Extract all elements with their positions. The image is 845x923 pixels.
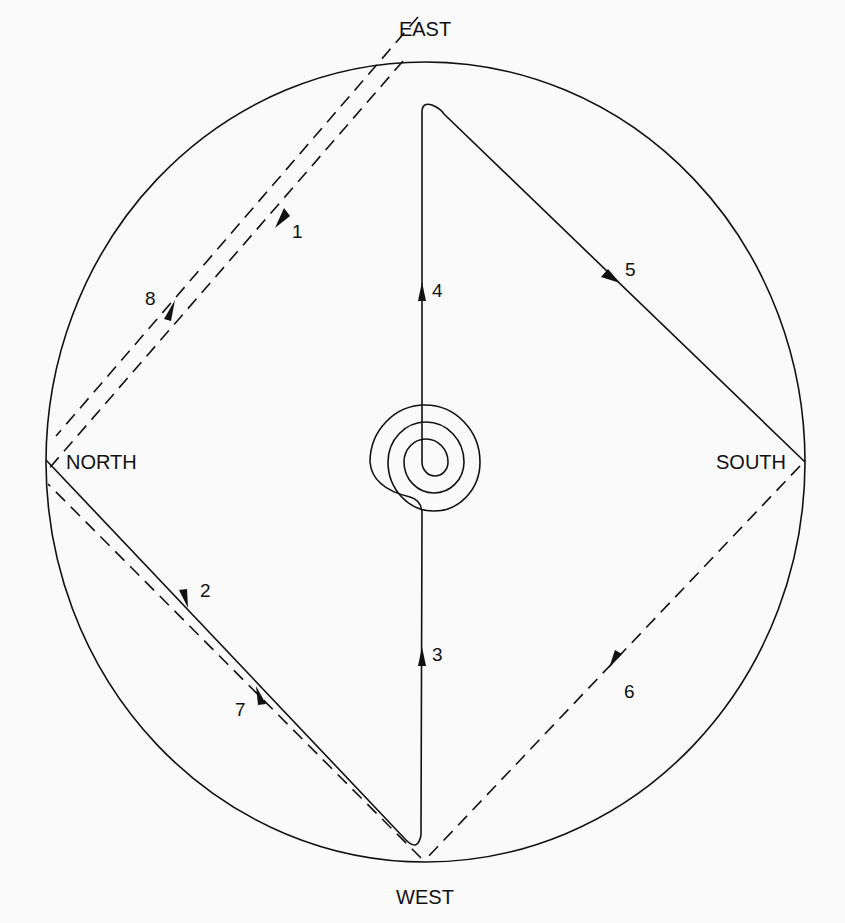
- segment-label-6: 6: [624, 681, 635, 702]
- arrow-segment-1: [275, 208, 290, 228]
- label-east: EAST: [399, 18, 451, 40]
- path-diagram: EAST WEST NORTH SOUTH 1 2 3 4 5 6 7 8: [0, 0, 845, 923]
- arrow-segment-6: [609, 650, 622, 668]
- arrow-segment-3: [418, 647, 426, 666]
- segment-2-line: [46, 460, 421, 845]
- segment-5-line: [422, 104, 805, 462]
- arrow-segment-7: [256, 686, 266, 705]
- arrow-segment-4: [418, 282, 426, 301]
- segment-label-3: 3: [432, 644, 443, 665]
- segment-label-2: 2: [200, 580, 211, 601]
- segment-label-1: 1: [292, 221, 303, 242]
- label-south: SOUTH: [716, 451, 786, 473]
- segment-label-8: 8: [145, 288, 156, 309]
- segment-7-line: [48, 484, 421, 858]
- segment-3-line: [370, 462, 422, 835]
- segment-label-4: 4: [432, 280, 443, 301]
- arrow-segment-5: [601, 269, 620, 283]
- arrow-segment-8: [164, 300, 175, 321]
- spiral: [370, 112, 480, 511]
- segment-label-7: 7: [235, 699, 246, 720]
- boundary-circle: [46, 62, 805, 862]
- label-west: WEST: [396, 886, 454, 908]
- label-north: NORTH: [66, 451, 137, 473]
- segment-1-line: [56, 17, 418, 436]
- segment-label-5: 5: [625, 259, 636, 280]
